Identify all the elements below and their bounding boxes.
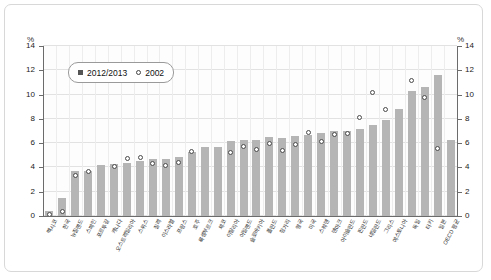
x-axis-label-text: 일본 <box>436 218 448 231</box>
y-tick-left <box>39 70 43 71</box>
y-tick-label-left: 4 <box>17 162 35 171</box>
y-tick-label-left: 6 <box>17 138 35 147</box>
y-tick-right <box>458 70 462 71</box>
y-tick-label-left: 10 <box>17 90 35 99</box>
x-axis-label-text: 스웨덴 <box>317 218 331 235</box>
data-point-marker <box>409 78 414 83</box>
y-tick-label-left: 14 <box>17 41 35 50</box>
x-axis-label-text: 터키 <box>423 218 435 231</box>
data-point-marker <box>138 155 143 160</box>
y-tick-label-right: 14 <box>465 41 483 50</box>
bar <box>317 133 325 216</box>
x-axis-label-text: 멕시코 <box>45 218 59 235</box>
y-tick-label-right: 10 <box>465 90 483 99</box>
data-point-marker <box>306 130 311 135</box>
y-tick-right <box>458 143 462 144</box>
y-tick-right <box>458 119 462 120</box>
x-axis-label-text: 스위스 <box>136 218 150 235</box>
x-axis-label-text: 미국 <box>307 218 319 231</box>
x-axis-label-text: 한국 <box>61 218 73 231</box>
data-point-marker <box>163 163 168 168</box>
y-tick-right <box>458 192 462 193</box>
gridline-vertical <box>276 46 277 216</box>
gridline-vertical <box>250 46 251 216</box>
chart-legend: 2012/2013 2002 <box>68 62 174 83</box>
y-tick-left <box>39 119 43 120</box>
bar <box>395 109 403 216</box>
gridline-vertical <box>405 46 406 216</box>
gridline-vertical <box>315 46 316 216</box>
legend-item-2002: 2002 <box>136 68 164 78</box>
bar <box>369 125 377 216</box>
data-point-marker <box>254 147 259 152</box>
data-point-marker <box>112 164 117 169</box>
gridline-vertical <box>366 46 367 216</box>
y-tick-left <box>39 192 43 193</box>
x-axis-label-text: 헝가리 <box>278 218 292 235</box>
gridline-vertical <box>211 46 212 216</box>
chart-figure: % % 0022446688101012121414 2012/2013 200… <box>4 4 483 272</box>
gridline-vertical <box>328 46 329 216</box>
y-tick-label-left: 0 <box>17 211 35 220</box>
y-tick-label-right: 12 <box>465 65 483 74</box>
gridline-vertical <box>302 46 303 216</box>
gridline-vertical <box>263 46 264 216</box>
data-point-marker <box>280 148 285 153</box>
gridline-vertical <box>237 46 238 216</box>
gridline-vertical <box>224 46 225 216</box>
data-point-marker <box>267 141 272 146</box>
y-tick-left <box>39 46 43 47</box>
y-tick-label-left: 12 <box>17 65 35 74</box>
bar <box>343 131 351 216</box>
data-point-marker <box>293 142 298 147</box>
y-tick-left <box>39 216 43 217</box>
y-tick-left <box>39 143 43 144</box>
y-tick-right <box>458 167 462 168</box>
bar <box>304 135 312 216</box>
legend-label-1: 2002 <box>145 68 164 78</box>
gridline-vertical <box>185 46 186 216</box>
y-tick-label-left: 2 <box>17 187 35 196</box>
legend-label-0: 2012/2013 <box>87 68 127 78</box>
y-tick-left <box>39 167 43 168</box>
legend-item-2012-2013: 2012/2013 <box>78 68 127 78</box>
y-tick-right <box>458 46 462 47</box>
bar <box>201 147 209 216</box>
data-point-marker <box>435 146 440 151</box>
bar <box>330 131 338 216</box>
gridline-vertical <box>354 46 355 216</box>
y-axis-left <box>43 46 44 217</box>
square-marker-icon <box>78 70 83 75</box>
gridline-vertical <box>444 46 445 216</box>
y-tick-label-right: 4 <box>465 162 483 171</box>
y-tick-label-right: 8 <box>465 114 483 123</box>
x-axis-label-text: 프랑스 <box>175 218 189 235</box>
y-axis-unit-right: % <box>457 35 464 44</box>
data-point-marker <box>422 95 427 100</box>
x-axis-label-text: 폴란드 <box>265 218 279 235</box>
x-axis-label-text: 호주 <box>190 218 202 231</box>
y-tick-label-right: 0 <box>465 211 483 220</box>
gridline-vertical <box>379 46 380 216</box>
y-tick-label-left: 8 <box>17 114 35 123</box>
gridline-vertical <box>289 46 290 216</box>
y-tick-right <box>458 95 462 96</box>
x-axis-label-text: 체코 <box>216 218 228 231</box>
bar <box>291 136 299 216</box>
x-axis-label-text: 칠레 <box>151 218 163 231</box>
x-axis-label-text: 독일 <box>410 218 422 231</box>
data-point-marker <box>345 131 350 136</box>
x-axis-labels: 멕시코한국뉴질랜드스페인포르투갈캐나다오스트레일리아스위스칠레이스라엘프랑스호주… <box>43 218 458 280</box>
gridline-vertical <box>198 46 199 216</box>
data-point-marker <box>86 169 91 174</box>
x-axis-label-text: 영국 <box>294 218 306 231</box>
data-point-marker <box>332 132 337 137</box>
bar <box>421 87 429 216</box>
y-tick-label-right: 6 <box>465 138 483 147</box>
y-tick-left <box>39 95 43 96</box>
circle-marker-icon <box>136 70 141 75</box>
gridline-vertical <box>431 46 432 216</box>
gridline-vertical <box>418 46 419 216</box>
gridline-vertical <box>392 46 393 216</box>
gridline-vertical <box>341 46 342 216</box>
